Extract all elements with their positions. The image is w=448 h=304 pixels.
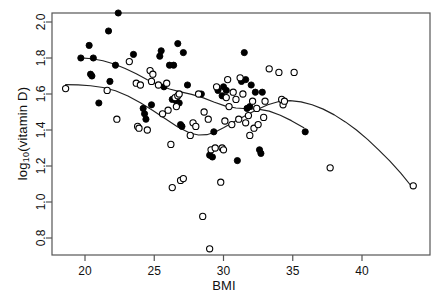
data-point-open: [229, 122, 235, 128]
data-point-open: [223, 95, 229, 101]
axis-layer: [46, 13, 430, 261]
data-point-open: [207, 246, 213, 252]
data-point-open: [255, 122, 261, 128]
data-point-open: [266, 66, 272, 72]
data-point-open: [173, 104, 179, 110]
scatter-plot-figure: 20253035400.81.01.21.41.61.82.0 BMI log1…: [0, 0, 448, 304]
data-point-filled: [184, 82, 190, 88]
data-point-filled: [115, 10, 121, 16]
y-tick-label-0.8: 0.8: [34, 229, 48, 246]
data-point-open: [276, 69, 282, 75]
data-point-open: [137, 82, 143, 88]
x-tick-label-30: 30: [217, 264, 231, 278]
data-point-filled: [107, 78, 113, 84]
data-point-filled: [96, 100, 102, 106]
y-axis-title-rest: (vitamin D): [15, 87, 30, 152]
y-tick-label-1.6: 1.6: [34, 85, 48, 102]
data-point-open: [187, 132, 193, 138]
data-points-layer: [63, 10, 417, 252]
data-point-filled: [175, 41, 181, 47]
data-point-filled: [171, 62, 177, 68]
data-point-open: [225, 77, 231, 83]
data-point-open: [233, 96, 239, 102]
data-point-filled: [258, 150, 264, 156]
data-point-filled: [112, 62, 118, 68]
data-point-open: [136, 125, 142, 131]
data-point-open: [410, 183, 416, 189]
data-point-open: [168, 141, 174, 147]
data-point-open: [230, 89, 236, 95]
data-point-open: [327, 165, 333, 171]
data-point-open: [240, 91, 246, 97]
data-point-filled: [89, 73, 95, 79]
y-tick-label-1.2: 1.2: [34, 157, 48, 174]
data-point-filled: [90, 55, 96, 61]
y-tick-label-1.8: 1.8: [34, 49, 48, 66]
data-point-filled: [130, 51, 136, 57]
data-point-open: [159, 111, 165, 117]
plot-border: [52, 13, 430, 255]
data-point-open: [243, 120, 249, 126]
data-point-filled: [259, 89, 265, 95]
data-point-open: [218, 179, 224, 185]
x-tick-label-20: 20: [78, 264, 92, 278]
data-point-open: [176, 91, 182, 97]
data-point-filled: [78, 55, 84, 61]
data-point-open: [195, 91, 201, 97]
data-point-open: [155, 82, 161, 88]
data-point-open: [144, 127, 150, 133]
data-point-open: [222, 118, 228, 124]
data-point-filled: [241, 50, 247, 56]
data-point-filled: [209, 154, 215, 160]
data-point-open: [201, 109, 207, 115]
y-tick-label-1.4: 1.4: [34, 121, 48, 138]
data-point-open: [150, 71, 156, 77]
data-point-filled: [158, 48, 164, 54]
x-tick-label-25: 25: [148, 264, 162, 278]
data-point-open: [180, 176, 186, 182]
data-point-filled: [248, 82, 254, 88]
y-axis-title-base: log: [15, 162, 30, 180]
data-point-filled: [234, 158, 240, 164]
data-point-filled: [302, 129, 308, 135]
data-point-open: [63, 86, 69, 92]
data-point-filled: [180, 50, 186, 56]
x-axis-title: BMI: [0, 278, 448, 293]
data-point-open: [164, 80, 170, 86]
tick-label-layer: 20253035400.81.01.21.41.61.82.0: [34, 13, 369, 278]
data-point-open: [249, 98, 255, 104]
data-point-open: [236, 116, 242, 122]
data-point-open: [261, 114, 267, 120]
data-point-open: [169, 185, 175, 191]
x-tick-label-35: 35: [286, 264, 300, 278]
data-point-open: [281, 98, 287, 104]
y-axis-title: log10(vitamin D): [15, 49, 30, 219]
data-point-open: [193, 123, 199, 129]
data-point-open: [262, 98, 268, 104]
data-point-filled: [86, 42, 92, 48]
data-point-open: [213, 84, 219, 90]
data-point-open: [212, 145, 218, 151]
data-point-filled: [105, 28, 111, 34]
data-point-open: [291, 69, 297, 75]
data-point-filled: [143, 116, 149, 122]
data-point-filled: [179, 123, 185, 129]
y-tick-label-1.0: 1.0: [34, 193, 48, 210]
data-point-open: [245, 113, 251, 119]
y-axis-title-subscript: 10: [21, 152, 31, 162]
plot-canvas: 20253035400.81.01.21.41.61.82.0: [0, 0, 448, 304]
x-tick-label-40: 40: [355, 264, 369, 278]
data-point-open: [165, 107, 171, 113]
data-point-filled: [211, 129, 217, 135]
data-point-open: [247, 132, 253, 138]
data-point-filled: [223, 87, 229, 93]
data-point-open: [200, 213, 206, 219]
data-point-open: [226, 104, 232, 110]
data-point-open: [114, 116, 120, 122]
data-point-open: [126, 59, 132, 65]
data-point-open: [205, 116, 211, 122]
data-point-open: [237, 75, 243, 81]
data-point-open: [220, 147, 226, 153]
y-tick-label-2.0: 2.0: [34, 13, 48, 30]
data-point-open: [254, 105, 260, 111]
